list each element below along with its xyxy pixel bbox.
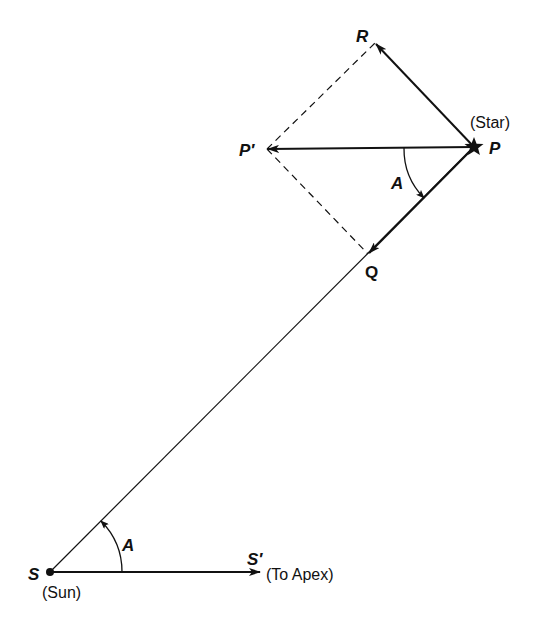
angle-arc-star (404, 148, 424, 198)
label-q: Q (365, 263, 378, 282)
label-angle-a-star: A (390, 174, 403, 193)
vector-p-to-q (369, 147, 474, 253)
diagram-canvas: R (Star) P P′ A Q A S′ (To Apex) S (Sun) (0, 0, 546, 623)
angle-arc-sun (101, 521, 122, 572)
label-s: S (28, 565, 40, 584)
label-pprime: P′ (239, 141, 255, 160)
label-sun-note: (Sun) (42, 584, 81, 601)
label-p: P (489, 139, 501, 158)
vector-p-to-pprime (268, 147, 474, 149)
label-r: R (356, 27, 369, 46)
vector-p-to-r (376, 44, 474, 147)
sun-dot-icon (46, 568, 54, 576)
label-apex-note: (To Apex) (266, 566, 334, 583)
label-s-prime: S′ (247, 550, 263, 569)
label-angle-a-sun: A (121, 536, 134, 555)
dashed-line-pprime-r (267, 43, 375, 149)
label-star-note: (Star) (470, 114, 510, 131)
dashed-line-pprime-q (267, 149, 368, 254)
